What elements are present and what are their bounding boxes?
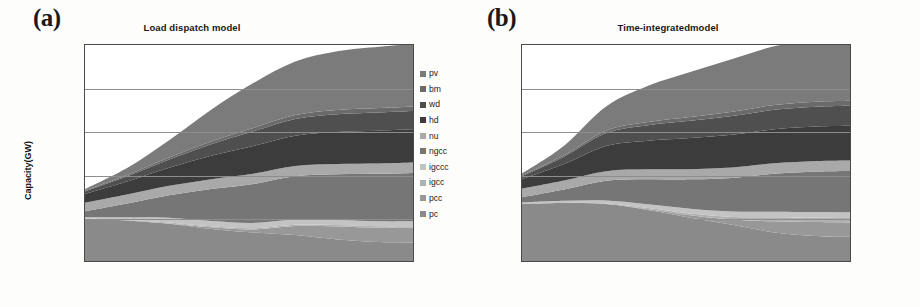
legend-label-igccc: igccc [429,163,449,172]
gridline [85,176,413,177]
legend-item-nu[interactable]: nu [420,131,449,140]
legend-item-bm[interactable]: bm [420,85,449,94]
legend-item-igccc[interactable]: igccc [420,163,449,172]
gridline [85,219,413,220]
panel-a-area-svg [85,45,413,261]
y-axis-tickmark [84,45,85,46]
x-axis-tickmark [607,261,608,262]
x-axis-tickmark [381,261,382,262]
panel-b-area-svg [522,45,850,261]
panel-a-legend: pvbmwdhdnungccigcccigccpccpc [420,69,449,218]
panel-b-plot-area: 0500100015002000250020112016202120262031… [521,44,851,262]
gridline [522,89,850,90]
y-axis-tickmark [521,45,522,46]
y-axis-tickmark [84,219,85,220]
gridline [85,132,413,133]
x-axis-tickmark [776,261,777,262]
y-axis-tickmark [84,176,85,177]
y-axis-tickmark [521,219,522,220]
x-axis-tickmark [649,261,650,262]
legend-swatch-icon-ngcc [420,148,426,154]
x-axis-tickmark [522,261,523,262]
legend-swatch-icon-igccc [420,164,426,170]
legend-label-nu: nu [429,132,439,141]
legend-item-pv[interactable]: pv [420,69,449,78]
legend-swatch-icon-igcc [420,180,426,186]
legend-item-pcc[interactable]: pcc [420,194,449,203]
legend-swatch-icon-pc [420,211,426,217]
y-axis-tickmark [84,132,85,133]
legend-label-pcc: pcc [429,194,442,203]
legend-label-pc: pc [429,210,438,219]
legend-item-ngcc[interactable]: ngcc [420,147,449,156]
legend-label-igcc: igcc [429,178,444,187]
legend-swatch-icon-wd [420,102,426,108]
legend-swatch-icon-pv [420,71,426,77]
x-axis-tickmark [85,261,86,262]
x-axis-tickmark [212,261,213,262]
x-axis-tickmark [818,261,819,262]
gridline [85,89,413,90]
stacked-area-figure: (a) Load dispatch model Capacity(GW) 050… [0,0,920,307]
panel-b: (b) Time-integratedmodel 050010001500200… [460,0,920,307]
x-axis-tickmark [691,261,692,262]
y-axis-tickmark [521,176,522,177]
legend-item-wd[interactable]: wd [420,100,449,109]
legend-swatch-icon-pcc [420,195,426,201]
legend-swatch-icon-hd [420,117,426,123]
legend-swatch-icon-bm [420,86,426,92]
legend-item-pc[interactable]: pc [420,209,449,218]
legend-item-igcc[interactable]: igcc [420,178,449,187]
legend-item-hd[interactable]: hd [420,116,449,125]
panel-a-y-axis-label: Capacity(GW) [23,141,33,200]
x-axis-tickmark [170,261,171,262]
y-axis-tickmark [521,132,522,133]
panel-a-title: Load dispatch model [0,22,422,33]
legend-label-hd: hd [429,116,439,125]
gridline [522,132,850,133]
gridline [522,219,850,220]
legend-label-wd: wd [429,100,440,109]
panel-a-plot-area: 0500100015002000250020112016202120262031… [84,44,414,262]
x-axis-tickmark [339,261,340,262]
gridline [522,176,850,177]
legend-label-pv: pv [429,69,438,78]
y-axis-tickmark [84,89,85,90]
x-axis-tickmark [734,261,735,262]
legend-label-bm: bm [429,85,441,94]
x-axis-tickmark [564,261,565,262]
y-axis-tickmark [521,89,522,90]
x-axis-tickmark [297,261,298,262]
x-axis-tickmark [127,261,128,262]
legend-label-ngcc: ngcc [429,147,447,156]
panel-b-title: Time-integratedmodel [438,22,898,33]
x-axis-tickmark [254,261,255,262]
legend-swatch-icon-nu [420,133,426,139]
panel-a: (a) Load dispatch model Capacity(GW) 050… [0,0,460,307]
